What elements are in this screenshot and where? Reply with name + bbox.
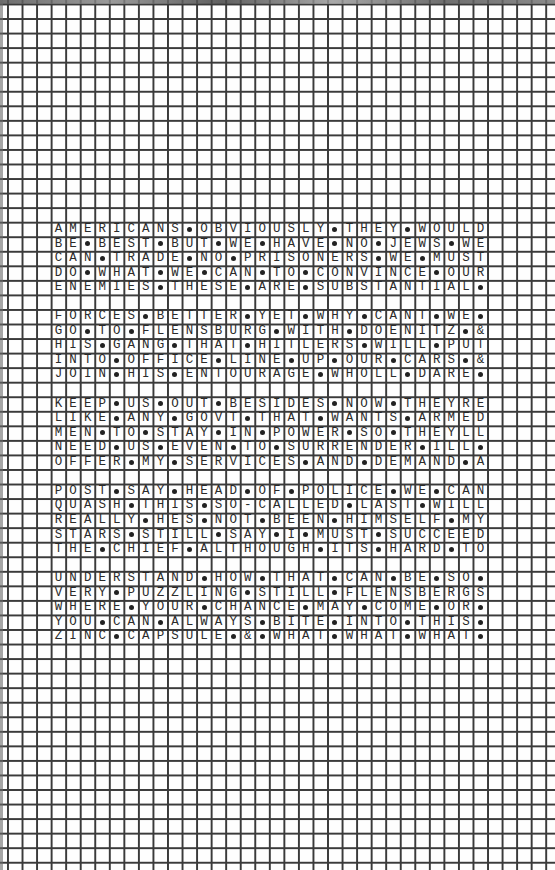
- separator-dot-icon: [270, 323, 285, 338]
- separator-dot-icon: [473, 309, 488, 324]
- letter-cell: T: [182, 309, 197, 324]
- letter-cell: W: [444, 309, 459, 324]
- letter-cell: S: [226, 527, 241, 542]
- letter-cell: V: [226, 222, 241, 237]
- letter-cell: C: [109, 542, 124, 557]
- letter-cell: O: [124, 352, 139, 367]
- letter-cell: I: [240, 352, 255, 367]
- letter-cell: R: [95, 222, 110, 237]
- letter-cell: N: [197, 251, 212, 266]
- letter-cell: H: [415, 396, 430, 411]
- separator-dot-icon: [153, 396, 168, 411]
- separator-dot-icon: [430, 265, 445, 280]
- letter-cell: O: [66, 265, 81, 280]
- text-row: STARSSTILLSAYIMUSTSUCCEED: [51, 527, 487, 542]
- letter-cell: U: [270, 222, 285, 237]
- letter-cell: O: [66, 323, 81, 338]
- letter-cell: C: [95, 629, 110, 644]
- letter-cell: E: [80, 280, 95, 295]
- letter-cell: E: [386, 454, 401, 469]
- letter-cell: A: [415, 411, 430, 426]
- letter-cell: O: [371, 323, 386, 338]
- separator-dot-icon: [240, 483, 255, 498]
- letter-cell: I: [109, 280, 124, 295]
- letter-cell: A: [80, 512, 95, 527]
- letter-cell: E: [430, 396, 445, 411]
- letter-cell: &: [473, 323, 488, 338]
- letter-cell: W: [386, 251, 401, 266]
- letter-cell: A: [66, 251, 81, 266]
- letter-cell: C: [95, 309, 110, 324]
- text-row: ZINCCAPSULE&WHATWHATWHAT: [51, 629, 487, 644]
- letter-cell: B: [95, 236, 110, 251]
- separator-dot-icon: [371, 527, 386, 542]
- letter-cell: U: [328, 527, 343, 542]
- letter-cell: R: [80, 585, 95, 600]
- text-block-4: POSTSAYHEADOFPOLICEWECANQUASHTHISSO-CALL…: [51, 483, 487, 556]
- letter-cell: O: [153, 600, 168, 615]
- letter-cell: L: [95, 512, 110, 527]
- letter-cell: T: [400, 498, 415, 513]
- letter-cell: O: [371, 425, 386, 440]
- text-block-5: UNDERSTANDHOWTHATCANBESOVERYPUZZLINGSTIL…: [51, 571, 487, 644]
- letter-cell: S: [211, 498, 226, 513]
- letter-cell: S: [124, 483, 139, 498]
- letter-cell: B: [415, 585, 430, 600]
- text-row: MENTOSTAYINPOWERSOTHEYLL: [51, 425, 487, 440]
- separator-dot-icon: [473, 280, 488, 295]
- separator-dot-icon: [240, 411, 255, 426]
- letter-cell: T: [109, 251, 124, 266]
- separator-dot-icon: [153, 614, 168, 629]
- letter-cell: O: [444, 600, 459, 615]
- letter-cell: N: [328, 454, 343, 469]
- separator-dot-icon: [357, 309, 372, 324]
- letter-cell: R: [109, 571, 124, 586]
- letter-cell: W: [226, 236, 241, 251]
- letter-cell: T: [299, 614, 314, 629]
- letter-cell: A: [270, 498, 285, 513]
- letter-cell: E: [299, 367, 314, 382]
- letter-cell: N: [211, 440, 226, 455]
- letter-cell: R: [444, 367, 459, 382]
- letter-cell: A: [386, 309, 401, 324]
- letter-cell: W: [371, 338, 386, 353]
- letter-cell: U: [66, 498, 81, 513]
- separator-dot-icon: [197, 600, 212, 615]
- letter-cell: U: [270, 542, 285, 557]
- letter-cell: E: [284, 280, 299, 295]
- letter-cell: A: [211, 338, 226, 353]
- separator-dot-icon: [109, 585, 124, 600]
- letter-cell: I: [240, 454, 255, 469]
- letter-cell: P: [95, 396, 110, 411]
- text-row: LIKEANYGOVTTHATWANTSARMED: [51, 411, 487, 426]
- letter-cell: T: [270, 585, 285, 600]
- letter-cell: R: [255, 251, 270, 266]
- letter-cell: Y: [139, 600, 154, 615]
- letter-cell: I: [342, 483, 357, 498]
- letter-cell: O: [430, 222, 445, 237]
- letter-cell: E: [400, 512, 415, 527]
- letter-cell: L: [299, 585, 314, 600]
- separator-dot-icon: [430, 483, 445, 498]
- separator-dot-icon: [80, 236, 95, 251]
- letter-cell: H: [153, 498, 168, 513]
- letter-cell: H: [109, 498, 124, 513]
- letter-grid-text: AMERICANSOBVIOUSLYTHEYWOULDBEBESTBUTWEHA…: [51, 222, 487, 644]
- letter-cell: L: [197, 527, 212, 542]
- letter-cell: U: [444, 222, 459, 237]
- letter-cell: O: [342, 352, 357, 367]
- letter-cell: Y: [386, 222, 401, 237]
- letter-cell: S: [80, 483, 95, 498]
- letter-cell: P: [444, 338, 459, 353]
- letter-cell: A: [226, 265, 241, 280]
- letter-cell: E: [270, 352, 285, 367]
- letter-cell: S: [168, 222, 183, 237]
- text-row: WHEREYOURCHANCEMAYCOMEOR: [51, 600, 487, 615]
- separator-dot-icon: [313, 367, 328, 382]
- separator-dot-icon: [415, 498, 430, 513]
- separator-dot-icon: [430, 338, 445, 353]
- separator-dot-icon: [109, 367, 124, 382]
- letter-cell: C: [255, 454, 270, 469]
- separator-dot-icon: [182, 222, 197, 237]
- separator-dot-icon: [255, 629, 270, 644]
